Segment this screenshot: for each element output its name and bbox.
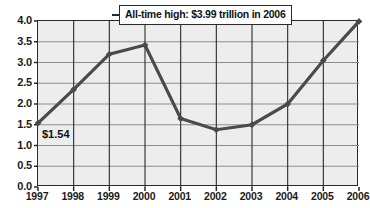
plot-svg: [38, 21, 359, 187]
x-tick-label: 1998: [61, 191, 84, 202]
y-tick-label: 2.5: [17, 77, 32, 88]
y-axis-tick-labels: 4.0 3.5 3.0 2.5 2.0 1.5 1.0 0.5 0.0: [0, 0, 34, 208]
first-point-value-label: $1.54: [41, 129, 71, 140]
all-time-high-callout: All-time high: $3.99 trillion in 2006: [119, 5, 292, 25]
x-tick-label: 2001: [168, 191, 191, 202]
y-tick-label: 3.0: [17, 56, 32, 67]
y-tick-label: 0.5: [17, 160, 32, 171]
x-tick-label: 2000: [133, 191, 156, 202]
gridlines: [38, 21, 359, 187]
axis-ticks: [34, 21, 359, 191]
y-tick-label: 3.5: [17, 35, 32, 46]
y-tick-label: 1.0: [17, 139, 32, 150]
data-series-line: [38, 21, 359, 129]
plot-area: $1.54: [37, 20, 358, 186]
line-chart: 4.0 3.5 3.0 2.5 2.0 1.5 1.0 0.5 0.0 $1.5…: [0, 0, 370, 208]
x-tick-label: 1999: [97, 191, 120, 202]
y-tick-label: 4.0: [17, 15, 32, 26]
x-tick-label: 2003: [240, 191, 263, 202]
x-tick-label: 2005: [311, 191, 334, 202]
x-tick-label: 2002: [204, 191, 227, 202]
x-tick-label: 2004: [275, 191, 298, 202]
y-tick-label: 1.5: [17, 118, 32, 129]
x-axis-tick-labels: 1997199819992000200120022003200420052006: [0, 190, 370, 208]
y-tick-label: 2.0: [17, 98, 32, 109]
data-point-markers: [35, 18, 363, 133]
x-tick-label: 1997: [26, 191, 49, 202]
x-tick-label: 2006: [347, 191, 370, 202]
